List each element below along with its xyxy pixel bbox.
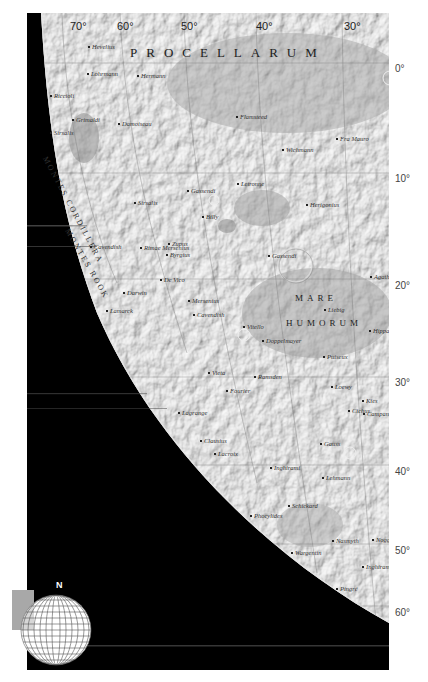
crater-marker-icon xyxy=(87,73,89,75)
feature-label: Hevelius xyxy=(88,43,115,50)
crater-marker-icon xyxy=(268,255,270,257)
feature-label: Liebig xyxy=(324,306,345,313)
crater-marker-icon xyxy=(348,410,350,412)
latitude-label: 50° xyxy=(395,545,410,556)
latitude-label: 20° xyxy=(395,280,410,291)
feature-label: Schickard xyxy=(288,502,318,509)
feature-label: Gassendi xyxy=(187,187,215,194)
feature-label: Lamarck xyxy=(106,307,133,314)
crater-marker-icon xyxy=(372,539,374,541)
feature-label: Puiseux xyxy=(323,353,348,360)
crater-marker-icon xyxy=(166,254,168,256)
crater-marker-icon xyxy=(187,190,189,192)
crater-marker-icon xyxy=(291,552,293,554)
crater-marker-icon xyxy=(320,443,322,445)
latitude-label: 60° xyxy=(395,607,410,618)
crater-marker-icon xyxy=(288,505,290,507)
crater-marker-icon xyxy=(243,326,245,328)
feature-label: Gauss xyxy=(320,440,340,447)
longitude-label: 40° xyxy=(256,20,273,32)
feature-label: Clausius xyxy=(200,437,227,444)
lunar-map: PROCELLARUM MARE HUMORUM Montes Cordille… xyxy=(27,13,389,670)
crater-marker-icon xyxy=(282,149,284,151)
longitude-label: 30° xyxy=(344,20,361,32)
crater-marker-icon xyxy=(50,95,52,97)
north-label: N xyxy=(56,580,63,590)
crater-marker-icon xyxy=(72,119,74,121)
feature-label: Kies xyxy=(362,397,378,404)
feature-label: Ramsden xyxy=(254,373,282,380)
crater-marker-icon xyxy=(331,386,333,388)
crater-marker-icon xyxy=(193,314,195,316)
crater-marker-icon xyxy=(336,588,338,590)
crater-marker-icon xyxy=(134,202,136,204)
feature-label: Inghirami xyxy=(362,563,389,570)
feature-label: Grimaldi xyxy=(72,116,100,123)
feature-label: Hippalus xyxy=(369,327,389,334)
region-label-procellarum: PROCELLARUM xyxy=(130,45,326,61)
feature-label: Cavendish xyxy=(193,311,224,318)
crater-marker-icon xyxy=(306,204,308,206)
crater-marker-icon xyxy=(362,400,364,402)
crater-marker-icon xyxy=(370,276,372,278)
locator-globe: N xyxy=(12,580,92,670)
feature-label: Lehmann xyxy=(322,474,350,481)
feature-label: Lohrmann xyxy=(87,70,118,77)
feature-label: Gassendi xyxy=(268,252,296,259)
latitude-label: 30° xyxy=(395,377,410,388)
crater-marker-icon xyxy=(50,132,52,134)
crater-marker-icon xyxy=(250,515,252,517)
feature-label: Noggerath xyxy=(372,536,389,543)
feature-label: Riccioli xyxy=(50,92,74,99)
crater-marker-icon xyxy=(140,247,142,249)
longitude-label: 60° xyxy=(117,20,134,32)
crater-marker-icon xyxy=(188,300,190,302)
crater-marker-icon xyxy=(202,216,204,218)
feature-label: Letronne xyxy=(237,180,264,187)
crater-marker-icon xyxy=(88,46,90,48)
crater-marker-icon xyxy=(254,376,256,378)
crater-marker-icon xyxy=(118,123,120,125)
feature-label: Lagrange xyxy=(178,409,207,416)
feature-label: De Vico xyxy=(160,276,185,283)
globe-icon xyxy=(12,590,92,670)
crater-marker-icon xyxy=(323,356,325,358)
feature-label: Inghirami xyxy=(270,464,300,471)
moon-surface xyxy=(27,13,389,670)
feature-label: Sirsalis xyxy=(50,129,74,136)
crater-marker-icon xyxy=(236,116,238,118)
crater-marker-icon xyxy=(369,330,371,332)
feature-label: Phocylides xyxy=(250,512,283,519)
region-label-humorum: HUMORUM xyxy=(286,318,362,328)
feature-label: Vitello xyxy=(243,323,264,330)
feature-label: Mersenius xyxy=(188,297,219,304)
crater-marker-icon xyxy=(270,467,272,469)
region-label-mare: MARE xyxy=(295,293,337,303)
crater-marker-icon xyxy=(324,309,326,311)
feature-label: Pingré xyxy=(336,585,358,592)
feature-label: Cichus xyxy=(348,407,370,414)
feature-label: Cavendish xyxy=(90,243,121,250)
feature-label: Herigonius xyxy=(306,201,339,208)
feature-label: Hermann xyxy=(137,72,166,79)
feature-label: Flamsteed xyxy=(236,113,267,120)
feature-label: Loewy xyxy=(331,383,352,390)
feature-label: Wargentin xyxy=(291,549,322,556)
feature-label: Darwin xyxy=(123,289,147,296)
feature-label: Fra Mauro xyxy=(336,135,369,142)
crater-marker-icon xyxy=(178,412,180,414)
crater-marker-icon xyxy=(200,440,202,442)
crater-marker-icon xyxy=(106,310,108,312)
crater-marker-icon xyxy=(336,138,338,140)
longitude-label: 70° xyxy=(70,20,87,32)
crater-marker-icon xyxy=(237,183,239,185)
feature-label: Fourier xyxy=(226,387,250,394)
crater-marker-icon xyxy=(262,340,264,342)
longitude-label: 50° xyxy=(181,20,198,32)
feature-label: Nasmyth xyxy=(332,537,359,544)
crater-marker-icon xyxy=(160,279,162,281)
crater-marker-icon xyxy=(123,292,125,294)
feature-label: Byrgius xyxy=(166,251,190,258)
feature-label: Vieta xyxy=(208,369,225,376)
crater-marker-icon xyxy=(362,566,364,568)
